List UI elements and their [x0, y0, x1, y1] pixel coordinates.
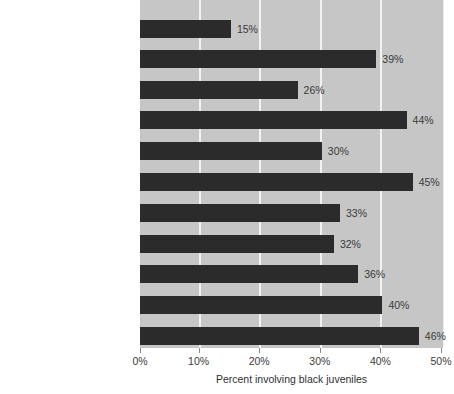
bar-10	[140, 327, 419, 345]
bar-value-4: 30%	[328, 143, 349, 159]
x-tick-label-0: 0%	[132, 355, 147, 367]
x-tick-label-30: 30%	[309, 355, 330, 367]
bar-9	[140, 296, 382, 314]
x-axis: 0% 10% 20% 30% 40% 50% Percent involving…	[140, 348, 443, 394]
x-tick-mark-0	[140, 348, 141, 353]
x-tick-mark-40	[380, 348, 381, 353]
bar-4	[140, 142, 322, 160]
x-tick-label-40: 40%	[370, 355, 391, 367]
x-tick-label-10: 10%	[188, 355, 209, 367]
bar-value-2: 26%	[304, 82, 325, 98]
bar-chart: U.S. population aged 10–17 15% Vio ent j…	[0, 0, 454, 394]
x-tick-mark-10	[199, 348, 200, 353]
bar-8	[140, 265, 358, 283]
x-tick-mark-50	[441, 348, 442, 353]
bar-value-10: 46%	[425, 328, 446, 344]
bar-3	[140, 111, 407, 129]
bar-value-3: 44%	[413, 112, 434, 128]
bar-value-0: 15%	[237, 21, 258, 37]
plot-right-edge	[443, 0, 444, 348]
x-tick-mark-20	[259, 348, 260, 353]
bar-value-7: 32%	[340, 236, 361, 252]
x-tick-label-20: 20%	[249, 355, 270, 367]
bar-6	[140, 204, 340, 222]
bar-value-5: 45%	[419, 174, 440, 190]
bar-value-8: 36%	[364, 266, 385, 282]
x-tick-mark-30	[320, 348, 321, 353]
bar-0	[140, 20, 231, 38]
bar-value-6: 33%	[346, 205, 367, 221]
bar-7	[140, 235, 334, 253]
bar-value-1: 39%	[382, 51, 403, 67]
plot-area: U.S. population aged 10–17 15% Vio ent j…	[140, 0, 443, 348]
bar-5	[140, 173, 413, 191]
bar-value-9: 40%	[388, 297, 409, 313]
bar-2	[140, 81, 298, 99]
x-axis-title: Percent involving black juveniles	[140, 373, 443, 385]
bar-1	[140, 50, 376, 68]
x-tick-label-50: 50%	[430, 355, 451, 367]
